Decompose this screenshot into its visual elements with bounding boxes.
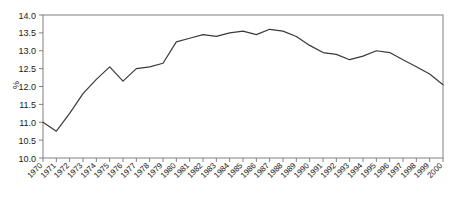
- x-axis-tick-label: 2000: [425, 161, 444, 180]
- y-axis-tick-label: 13.5: [18, 28, 36, 38]
- plot-frame: [43, 15, 443, 158]
- y-axis-tick-label: 13.0: [18, 46, 36, 56]
- y-axis-tick-label: 10.0: [18, 154, 36, 164]
- y-axis-tick-label: 11.0: [19, 118, 36, 128]
- y-axis-tick-label: 14.0: [18, 11, 36, 21]
- y-axis-title: %: [11, 75, 21, 95]
- y-axis-tick-label: 12.0: [18, 82, 36, 92]
- chart-canvas: 10.010.511.011.512.012.513.013.514.01970…: [0, 0, 464, 198]
- data-series-line: [43, 29, 443, 131]
- y-axis-tick-label: 11.5: [19, 100, 36, 110]
- y-axis-tick-label: 10.5: [18, 136, 36, 146]
- line-chart: 10.010.511.011.512.012.513.013.514.01970…: [0, 0, 464, 198]
- y-axis-tick-label: 12.5: [18, 64, 36, 74]
